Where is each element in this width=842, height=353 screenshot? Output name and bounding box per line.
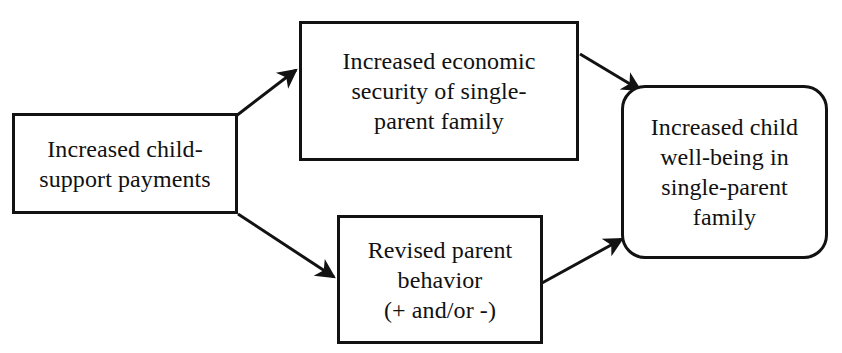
node-increased-child-well-being: Increased child well-being in single-par… xyxy=(621,85,828,259)
node-label: Increased economic security of single- p… xyxy=(336,46,541,136)
node-label: Increased child well-being in single-par… xyxy=(645,112,804,232)
edge-parent-behavior-to-child-wellbeing xyxy=(542,239,622,283)
edge-child-support-to-economic-security xyxy=(236,70,296,116)
node-label: Increased child- support payments xyxy=(33,134,217,194)
edge-child-support-to-parent-behavior xyxy=(238,214,334,277)
edge-economic-security-to-child-wellbeing xyxy=(580,54,640,90)
node-increased-economic-security: Increased economic security of single- p… xyxy=(299,21,579,161)
node-label: Revised parent behavior (+ and/or -) xyxy=(362,235,519,325)
node-increased-child-support-payments: Increased child- support payments xyxy=(12,113,238,214)
node-revised-parent-behavior: Revised parent behavior (+ and/or -) xyxy=(337,215,543,344)
causal-flow-diagram: Increased child- support payments Increa… xyxy=(0,0,842,353)
